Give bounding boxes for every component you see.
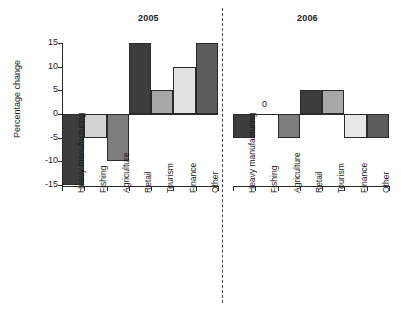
x-category-label: Tourism <box>166 163 175 193</box>
x-axis-tick <box>233 187 234 191</box>
x-category-label: Agriculture <box>293 152 302 193</box>
y-tick-label: -10 <box>32 156 58 165</box>
bar <box>344 114 366 138</box>
bar <box>84 114 106 138</box>
bar <box>322 90 344 114</box>
bar <box>151 90 173 114</box>
panel-title-2005: 2005 <box>138 13 159 23</box>
bar <box>278 114 300 138</box>
zero-value-annotation: 0 <box>262 99 267 109</box>
x-category-label: Agriculture <box>122 152 131 193</box>
bar <box>300 90 322 114</box>
x-category-label: Retail <box>144 171 153 193</box>
y-axis-label: Percentage change <box>12 39 22 159</box>
panel-divider-dashed-line <box>222 8 223 303</box>
bar <box>196 43 218 114</box>
y-axis-spine <box>62 43 63 186</box>
bar-chart: 2005 2006 Percentage change 151050-5-10-… <box>0 0 401 311</box>
y-tick-label: 10 <box>32 62 58 71</box>
bar <box>129 43 151 114</box>
y-axis-tick-labels: 151050-5-10-15 <box>30 0 58 311</box>
x-axis-tick <box>62 187 63 191</box>
x-category-label: Tourism <box>337 163 346 193</box>
x-category-label: Heavy manufacturing <box>77 113 86 193</box>
x-category-label: Heavy manufacturing <box>248 113 257 193</box>
x-category-label: Retail <box>315 171 324 193</box>
y-tick-label: 5 <box>32 85 58 94</box>
bar <box>367 114 389 138</box>
y-tick-label: 0 <box>32 109 58 118</box>
x-category-label: Other <box>211 172 220 193</box>
x-category-label: Other <box>382 172 391 193</box>
y-tick-label: -5 <box>32 133 58 142</box>
x-category-label: Fishing <box>270 166 279 193</box>
y-tick-label: 15 <box>32 38 58 47</box>
y-tick-label: -15 <box>32 180 58 189</box>
panel-title-2006: 2006 <box>297 13 318 23</box>
bar <box>173 67 195 114</box>
x-category-label: Fishing <box>99 166 108 193</box>
x-category-label: Finance <box>189 163 198 193</box>
x-category-label: Finance <box>360 163 369 193</box>
